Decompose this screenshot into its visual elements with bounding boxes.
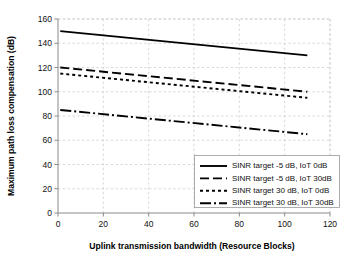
- series-line-dash-dot: [60, 110, 307, 134]
- y-axis-title: Maximum path loss compensation (dB): [6, 36, 16, 196]
- legend-label-2: SINR target 30 dB, IoT 0dB: [232, 186, 329, 195]
- x-tick-label: 40: [144, 219, 154, 229]
- x-tick-label: 120: [323, 219, 337, 229]
- series-lines: [60, 31, 307, 134]
- x-tick-label: 20: [99, 219, 109, 229]
- y-tick-label: 0: [47, 208, 52, 218]
- x-axis-title: Uplink transmission bandwidth (Resource …: [89, 241, 294, 251]
- y-tick-label: 160: [38, 14, 52, 24]
- x-tick-label: 80: [235, 219, 245, 229]
- x-tick-label: 60: [189, 219, 199, 229]
- y-tick-label: 20: [43, 184, 53, 194]
- x-tick-label: 100: [278, 219, 292, 229]
- chart-figure: 020406080100120140160 020406080100120 Up…: [0, 0, 352, 268]
- series-line-dashed: [60, 68, 307, 92]
- legend-label-3: SINR target 30 dB, IoT 30dB: [232, 198, 334, 207]
- x-tick-label: 0: [56, 219, 61, 229]
- legend-label-1: SINR target -5 dB, IoT 30dB: [232, 174, 332, 183]
- y-tick-label: 40: [43, 160, 53, 170]
- y-tick-label: 80: [43, 111, 53, 121]
- chart-legend: SINR target -5 dB, IoT 0dBSINR target -5…: [195, 156, 340, 208]
- y-tick-label: 120: [38, 63, 52, 73]
- y-axis-ticks: 020406080100120140160: [38, 14, 58, 218]
- y-tick-label: 140: [38, 38, 52, 48]
- line-chart: 020406080100120140160 020406080100120 Up…: [0, 0, 352, 268]
- y-tick-label: 100: [38, 87, 52, 97]
- legend-label-0: SINR target -5 dB, IoT 0dB: [232, 161, 327, 170]
- y-tick-label: 60: [43, 135, 53, 145]
- series-line-dotted: [60, 74, 307, 98]
- x-axis-ticks: 020406080100120: [56, 213, 338, 229]
